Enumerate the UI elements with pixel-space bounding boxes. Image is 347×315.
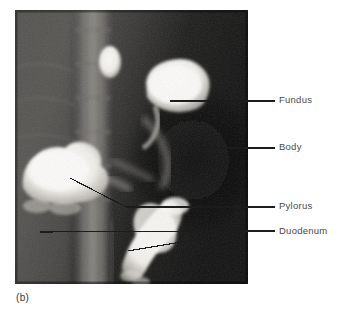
annotation-label-duodenum: Duodenum <box>279 226 327 236</box>
figure-panel-b: Fundus Body Pylorus Duodenum (b) <box>0 0 347 315</box>
annotation-label-fundus: Fundus <box>279 95 312 105</box>
radiograph-canvas <box>15 10 248 284</box>
annotation-label-pylorus: Pylorus <box>279 201 312 211</box>
figure-caption: (b) <box>16 292 29 303</box>
film-grain <box>15 10 248 284</box>
radiograph-image <box>15 10 248 284</box>
annotation-label-body: Body <box>279 142 302 152</box>
